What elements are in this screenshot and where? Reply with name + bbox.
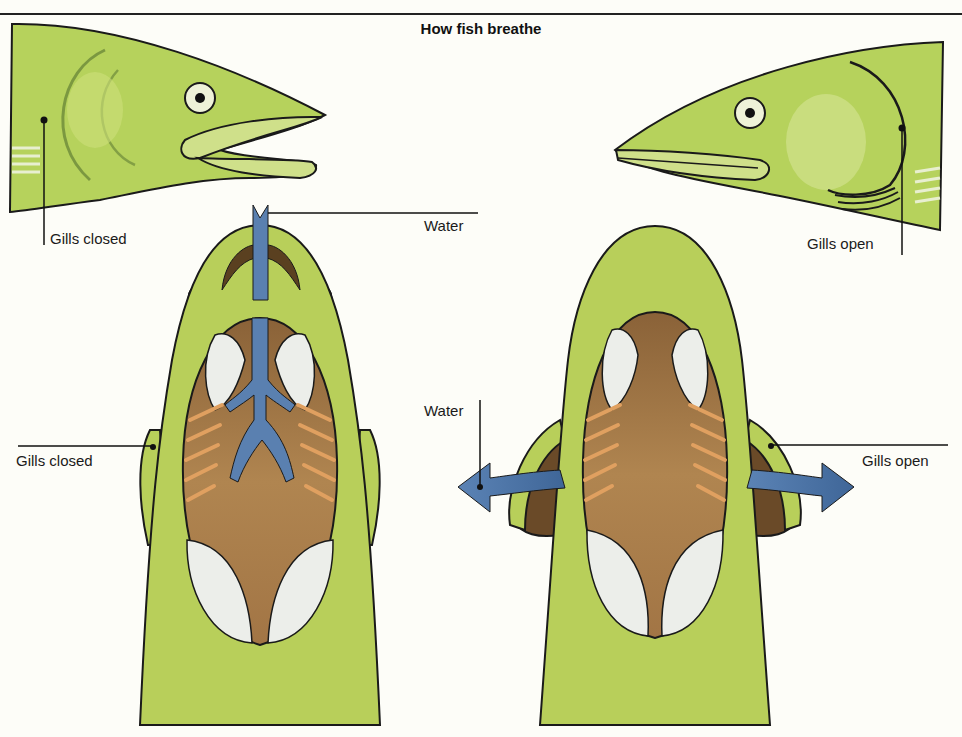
label-gills-open-side: Gills open: [807, 235, 874, 252]
right-side-view-fish-head: [615, 42, 943, 255]
left-side-view-fish-head: [10, 24, 325, 245]
right-gill-open-pointer: [768, 443, 948, 449]
label-water-out: Water: [424, 402, 463, 419]
label-gills-open-top: Gills open: [862, 452, 929, 469]
fish-breathing-diagram: [0, 0, 962, 737]
label-water-in: Water: [424, 217, 463, 234]
left-gill-closed-pointer: [18, 444, 156, 450]
label-gills-closed-side: Gills closed: [50, 230, 127, 247]
label-gills-closed-top: Gills closed: [16, 452, 93, 469]
